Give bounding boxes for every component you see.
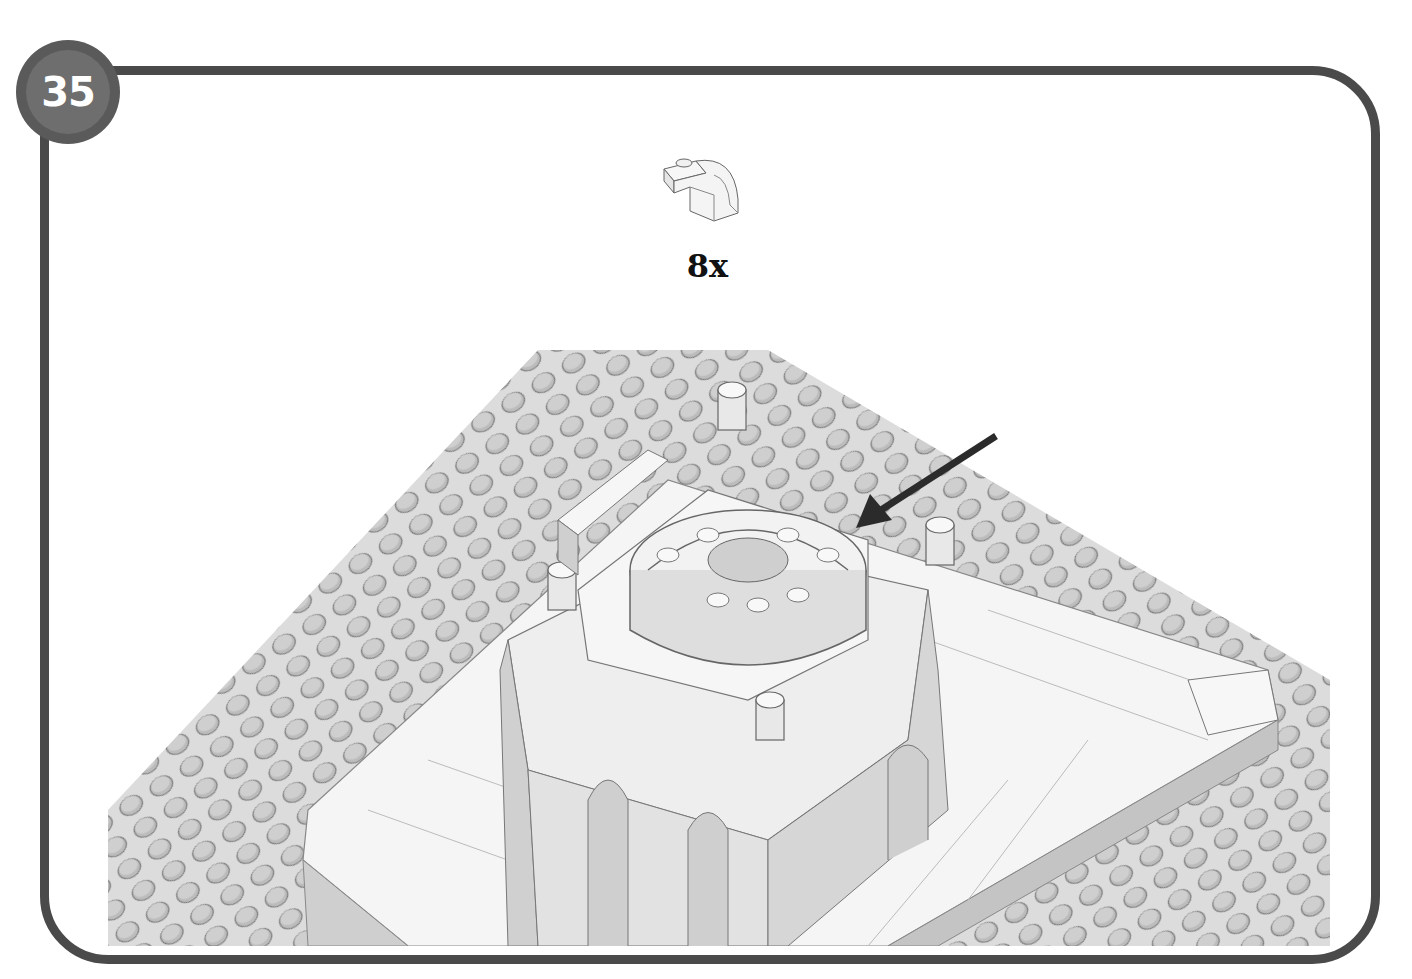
curved-slope-brick-icon xyxy=(656,149,746,229)
palace-model-illustration xyxy=(108,340,1330,946)
step-number: 35 xyxy=(41,69,95,115)
part-quantity: 8x xyxy=(650,247,765,285)
parts-callout: 8x xyxy=(650,145,770,295)
step-number-badge: 35 xyxy=(16,40,120,144)
build-illustration xyxy=(108,340,1330,946)
step-number-badge-inner: 35 xyxy=(26,50,110,134)
placement-arrow-icon xyxy=(848,432,1000,532)
